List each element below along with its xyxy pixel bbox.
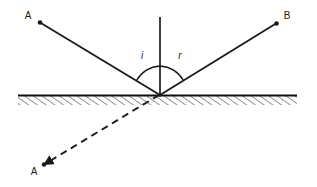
label-incident-ray-source: A [25,10,32,21]
virtual-ray-dashed [45,95,159,164]
label-reflected-ray-end: B [284,10,291,21]
virtual-ray-endpoint-dot [42,162,46,166]
surface-hatching [18,96,297,105]
incidence-point-dot [158,93,161,96]
diagram-canvas: A B A i r [0,0,317,187]
reflected-ray-endpoint-dot [274,21,279,26]
reflection-diagram: A B A i r [0,0,317,187]
label-angle-of-reflection: r [178,50,182,61]
incident-ray-endpoint-dot [38,20,43,25]
label-angle-of-incidence: i [141,50,144,61]
label-virtual-ray-end: A [31,166,38,177]
